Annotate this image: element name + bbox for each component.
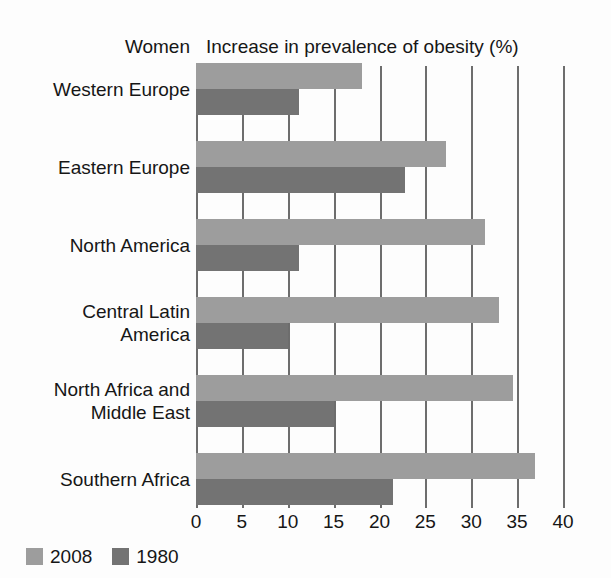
x-tick-label-10: 10 <box>268 508 308 536</box>
bar-group <box>196 141 563 219</box>
legend-swatch-2008 <box>26 548 43 565</box>
gridline-40 <box>563 66 565 508</box>
bar-group <box>196 63 563 141</box>
bar-2008 <box>196 375 513 401</box>
category-label: North America <box>0 234 190 257</box>
legend-label: 1980 <box>136 546 178 567</box>
x-tick-label-20: 20 <box>360 508 400 536</box>
category-label-line: Central Latin <box>0 300 190 323</box>
category-label-line: North Africa and <box>0 378 190 401</box>
x-axis-tick-labels: 0510152025303540 <box>196 508 563 538</box>
bar-group <box>196 375 563 453</box>
bar-1980 <box>196 245 299 271</box>
panel-label: Women <box>0 34 190 60</box>
legend-label: 2008 <box>50 546 92 567</box>
obesity-prevalence-chart: Women Increase in prevalence of obesity … <box>0 0 611 578</box>
legend-item[interactable]: 1980 <box>112 546 178 567</box>
bar-2008 <box>196 141 446 167</box>
bar-2008 <box>196 63 362 89</box>
category-label: Central LatinAmerica <box>0 300 190 346</box>
x-tick-label-5: 5 <box>222 508 262 536</box>
bar-1980 <box>196 479 393 505</box>
chart-legend: 20081980 <box>26 544 190 568</box>
bar-1980 <box>196 323 288 349</box>
category-label-line: Middle East <box>0 401 190 424</box>
category-label-column: Western EuropeEastern EuropeNorth Americ… <box>0 66 190 508</box>
legend-swatch-1980 <box>112 548 129 565</box>
category-label-line: Southern Africa <box>0 468 190 491</box>
category-label: Western Europe <box>0 78 190 101</box>
chart-axis-title: Increase in prevalence of obesity (%) <box>206 34 519 60</box>
x-tick-label-25: 25 <box>405 508 445 536</box>
legend-item[interactable]: 2008 <box>26 546 92 567</box>
category-label: Eastern Europe <box>0 156 190 179</box>
bar-2008 <box>196 219 485 245</box>
bar-2008 <box>196 297 499 323</box>
x-tick-label-0: 0 <box>176 508 216 536</box>
bar-1980 <box>196 401 334 427</box>
plot-area <box>196 66 563 508</box>
category-label-line: Western Europe <box>0 78 190 101</box>
x-tick-label-40: 40 <box>543 508 583 536</box>
x-tick-label-30: 30 <box>451 508 491 536</box>
bar-1980 <box>196 89 299 115</box>
bar-1980 <box>196 167 405 193</box>
category-label: Southern Africa <box>0 468 190 491</box>
x-tick-label-35: 35 <box>497 508 537 536</box>
x-tick-label-15: 15 <box>314 508 354 536</box>
category-label-line: North America <box>0 234 190 257</box>
bar-2008 <box>196 453 535 479</box>
category-label-line: Eastern Europe <box>0 156 190 179</box>
category-label: North Africa andMiddle East <box>0 378 190 424</box>
bar-group <box>196 297 563 375</box>
chart-header: Women Increase in prevalence of obesity … <box>0 34 611 60</box>
category-label-line: America <box>0 323 190 346</box>
bar-group <box>196 219 563 297</box>
